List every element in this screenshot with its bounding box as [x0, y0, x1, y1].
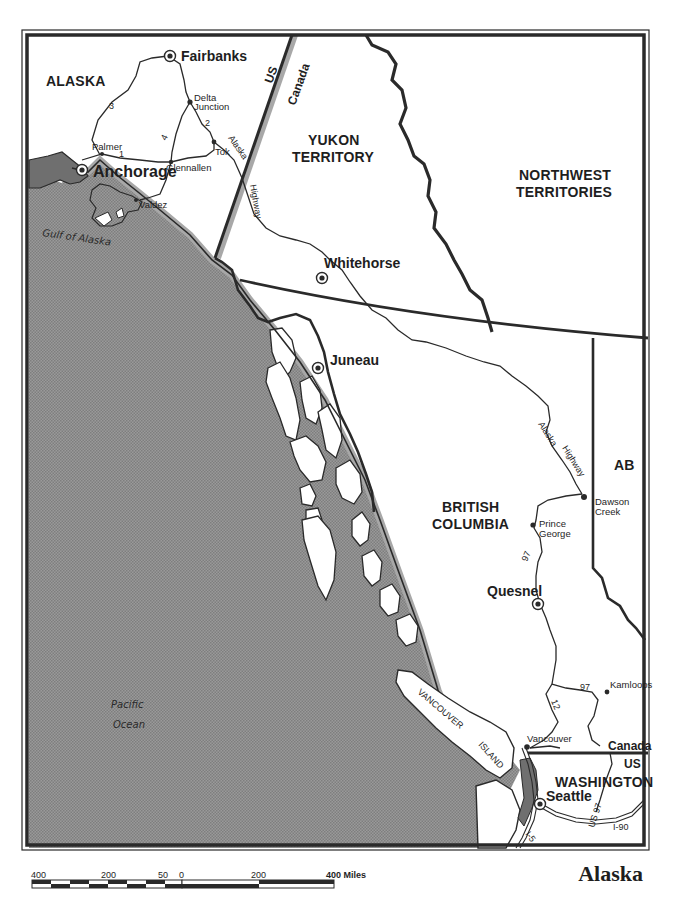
- olympic-peninsula: [476, 780, 520, 848]
- alaska-map: ALASKA YUKON TERRITORY NORTHWEST TERRITO…: [0, 0, 679, 911]
- label-alaska-hwy-bc-2: Highway: [560, 444, 587, 479]
- label-valdez: Valdez: [139, 199, 168, 210]
- bc-alberta-border: [593, 338, 645, 640]
- label-route-1: 1: [119, 149, 124, 159]
- label-prince-2: George: [539, 528, 571, 539]
- label-nwt-2: TERRITORIES: [516, 184, 612, 200]
- label-tok: Tok: [215, 146, 230, 157]
- juneau-marker: [313, 363, 324, 374]
- scale-bar: 400 200 50 0 200 400 Miles: [31, 870, 366, 888]
- seattle-marker: [535, 799, 546, 810]
- yukon-nwt-border: [366, 35, 492, 332]
- label-route-3: 3: [109, 101, 114, 111]
- tok-dot: [212, 140, 217, 145]
- label-alaska-hwy-north-1: Alaska: [226, 133, 250, 161]
- anchorage-marker: [77, 165, 88, 176]
- delta-junction-dot: [187, 99, 192, 104]
- label-alberta: AB: [614, 457, 635, 473]
- label-whitehorse: Whitehorse: [324, 255, 400, 271]
- label-canada-north: Canada: [285, 61, 313, 107]
- quesnel-marker: [533, 599, 544, 610]
- label-fairbanks: Fairbanks: [181, 48, 247, 64]
- label-alaska-hwy-bc-1: Alaska: [536, 420, 559, 448]
- label-bc-1: BRITISH: [442, 499, 499, 515]
- label-us97: US 97: [586, 802, 603, 829]
- label-route-97-south: 97: [580, 682, 590, 692]
- label-dawson-2: Creek: [595, 506, 621, 517]
- scale-tick-0: 0: [179, 870, 184, 880]
- scale-tick-200-right: 200: [251, 870, 266, 880]
- whitehorse-marker: [317, 273, 328, 284]
- prince-george-dot: [530, 522, 535, 527]
- label-juneau: Juneau: [330, 352, 379, 368]
- label-glennallen: Glennallen: [166, 162, 211, 173]
- label-yukon-2: TERRITORY: [292, 149, 374, 165]
- yukon-bc-border: [240, 280, 648, 338]
- label-delta-2: Junction: [194, 101, 229, 112]
- label-us-south: US: [624, 757, 641, 771]
- label-i5: I-5: [523, 829, 537, 843]
- label-canada-south: Canada: [608, 739, 652, 753]
- dawson-creek-dot: [581, 494, 587, 500]
- scale-tick-400-left: 400: [31, 870, 46, 880]
- label-yukon-1: YUKON: [308, 132, 360, 148]
- label-nwt-1: NORTHWEST: [519, 167, 611, 183]
- route-4: [171, 102, 190, 162]
- route-vancouver: [530, 746, 560, 748]
- vancouver-dot: [524, 744, 530, 750]
- label-pacific-1: Pacific: [111, 699, 144, 710]
- valdez-dot: [134, 198, 138, 202]
- label-bc-2: COLUMBIA: [432, 516, 509, 532]
- label-alaska: ALASKA: [46, 73, 106, 89]
- label-route-4: 4: [159, 133, 170, 142]
- palmer-dot: [100, 152, 104, 156]
- fairbanks-marker: [165, 51, 176, 62]
- label-palmer: Palmer: [92, 141, 122, 152]
- label-anchorage: Anchorage: [93, 163, 177, 180]
- label-pacific-2: Ocean: [113, 719, 145, 730]
- label-route-97-north: 97: [520, 550, 533, 563]
- route-tok: [171, 142, 214, 162]
- label-route-2: 2: [205, 118, 210, 128]
- label-seattle: Seattle: [546, 788, 592, 804]
- scale-tick-400-miles: 400 Miles: [326, 870, 366, 880]
- label-quesnel: Quesnel: [487, 583, 542, 599]
- scale-tick-200-left: 200: [101, 870, 116, 880]
- map-title: Alaska: [578, 861, 643, 887]
- kamloops-dot: [605, 690, 610, 695]
- label-vancouver: Vancouver: [527, 733, 572, 744]
- label-i90: I-90: [613, 822, 629, 832]
- label-kamloops: Kamloops: [610, 679, 652, 690]
- scale-tick-50: 50: [158, 870, 168, 880]
